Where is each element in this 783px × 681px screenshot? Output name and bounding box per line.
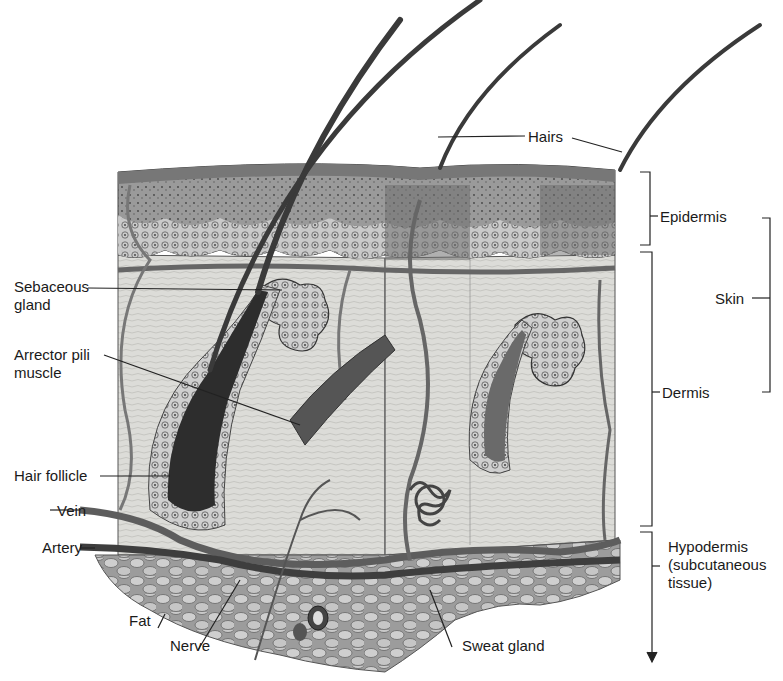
label-skin: Skin bbox=[715, 290, 744, 308]
label-nerve: Nerve bbox=[170, 637, 210, 655]
label-epidermis: Epidermis bbox=[660, 208, 727, 226]
skin-cross-section-illustration bbox=[0, 0, 783, 681]
epidermis-layer bbox=[118, 164, 615, 260]
label-artery: Artery bbox=[42, 539, 82, 557]
label-arrector-pili-muscle: Arrector pili muscle bbox=[14, 346, 90, 382]
label-dermis: Dermis bbox=[662, 384, 710, 402]
label-vein: Vein bbox=[57, 502, 86, 520]
label-hairs: Hairs bbox=[528, 128, 563, 146]
label-hypodermis: Hypodermis (subcutaneous tissue) bbox=[668, 538, 766, 592]
label-sebaceous-gland: Sebaceous gland bbox=[14, 278, 89, 314]
label-sweat-gland: Sweat gland bbox=[462, 637, 545, 655]
label-hair-follicle: Hair follicle bbox=[14, 467, 87, 485]
label-fat: Fat bbox=[129, 612, 151, 630]
